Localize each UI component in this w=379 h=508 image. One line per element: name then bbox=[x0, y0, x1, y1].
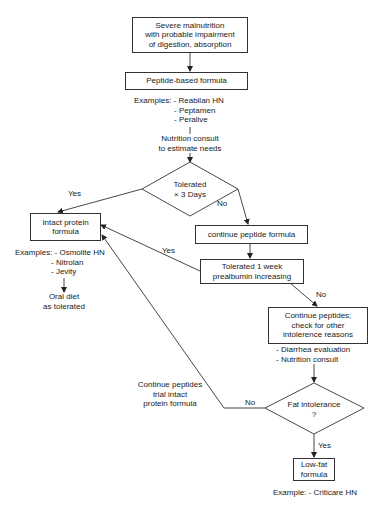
edge-label-tolerated3-yes: Yes bbox=[68, 189, 81, 198]
nutrition-consult-text: Nutrition consult to estimate needs bbox=[150, 134, 230, 153]
edge-label-tolerated3-no: No bbox=[217, 199, 227, 208]
intact-examples: Examples: - Osmolite HN - Nitrolan - Jev… bbox=[15, 248, 105, 277]
edge-label-fat-yes: Yes bbox=[318, 441, 331, 450]
node-text: formula bbox=[42, 227, 88, 237]
node-text: prealbumin increasing bbox=[213, 272, 291, 282]
text-line: Nutrition consult bbox=[150, 134, 230, 144]
node-text: Low-fat bbox=[301, 460, 328, 470]
text-line: Oral diet bbox=[34, 292, 94, 302]
decision-text-fat-intolerance: Fat intolerance ? bbox=[279, 400, 349, 419]
node-peptide-based-formula: Peptide-based formula bbox=[125, 72, 248, 90]
edge-label-week-yes: Yes bbox=[162, 246, 175, 255]
node-text: of digestion, absorption bbox=[145, 40, 234, 50]
edge-label-fat-no: No bbox=[245, 398, 255, 407]
node-text: intolerence reasons bbox=[283, 330, 353, 340]
arrow-tolerated3-no bbox=[238, 189, 248, 224]
example-line: - Peralive bbox=[134, 115, 224, 125]
example-line: Examples: - Reabilan HN bbox=[134, 96, 224, 106]
node-text: continue peptide formula bbox=[208, 230, 296, 240]
node-text: Severe malnutrition bbox=[145, 21, 234, 31]
text-line: Continue peptides bbox=[130, 380, 210, 390]
low-fat-example: Example: - Criticare HN bbox=[270, 488, 360, 498]
node-text: check for other bbox=[283, 321, 353, 331]
text-line: to estimate needs bbox=[150, 144, 230, 154]
text-line: ? bbox=[279, 410, 349, 420]
node-text: Continue peptides; bbox=[283, 311, 353, 321]
node-continue-peptides-check: Continue peptides; check for other intol… bbox=[268, 307, 368, 344]
node-text: with probable impairment bbox=[145, 30, 234, 40]
example-line: - Nitrolan bbox=[15, 258, 105, 268]
node-start-severe-malnutrition: Severe malnutrition with probable impair… bbox=[132, 17, 248, 53]
arrow-week-no bbox=[290, 283, 317, 306]
trial-intact-note: Continue peptides trial intact protein f… bbox=[130, 380, 210, 409]
edge-label-week-no: No bbox=[316, 290, 326, 299]
node-continue-peptide-formula: continue peptide formula bbox=[195, 225, 308, 244]
check-item: - Diarrhea evaluation bbox=[276, 345, 350, 355]
node-low-fat-formula: Low-fat formula bbox=[293, 458, 335, 481]
example-line: - Jevity bbox=[15, 267, 105, 277]
arrow-week-yes bbox=[101, 225, 200, 271]
node-intact-protein-formula: Intact protein formula bbox=[30, 213, 101, 241]
decision-text-tolerated-3days: Tolerated × 3 Days bbox=[160, 180, 220, 199]
node-text: Peptide-based formula bbox=[146, 76, 227, 86]
node-text: Intact protein bbox=[42, 218, 88, 228]
text-line: Tolerated bbox=[160, 180, 220, 190]
node-text: formula bbox=[301, 470, 328, 480]
text-line: Fat intolerance bbox=[279, 400, 349, 410]
check-item: - Nutrition consult bbox=[276, 355, 350, 365]
text-line: protein formula bbox=[130, 399, 210, 409]
text-line: as tolerated bbox=[34, 302, 94, 312]
example-line: Examples: - Osmolite HN bbox=[15, 248, 105, 258]
oral-diet-text: Oral diet as tolerated bbox=[34, 292, 94, 311]
text-line: trial intact bbox=[130, 390, 210, 400]
node-tolerated-1-week: Tolerated 1 week prealbumin increasing bbox=[200, 259, 304, 284]
node-text: Tolerated 1 week bbox=[213, 262, 291, 272]
peptide-examples: Examples: - Reabilan HN - Peptamen - Per… bbox=[134, 96, 224, 125]
text-line: × 3 Days bbox=[160, 190, 220, 200]
check-items: - Diarrhea evaluation - Nutrition consul… bbox=[276, 345, 350, 364]
example-line: - Peptamen bbox=[134, 106, 224, 116]
